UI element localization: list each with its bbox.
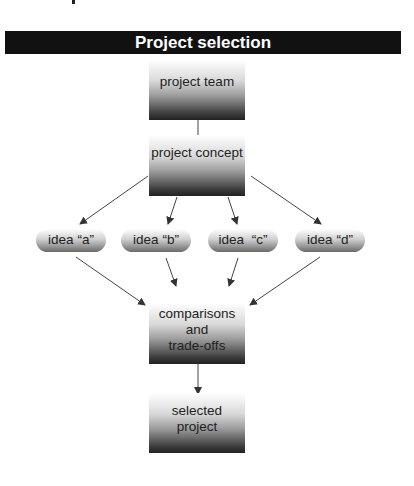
node-project-concept: project concept (149, 135, 245, 196)
node-label-line: project (149, 419, 245, 435)
arrow-concept-to-idea-c (228, 197, 237, 224)
arrow-idea-d-to-comparisons (250, 257, 320, 305)
arrow-concept-to-idea-a (80, 176, 148, 224)
arrow-idea-c-to-comparisons (229, 258, 238, 286)
arrow-concept-to-idea-b (168, 197, 177, 224)
node-project-team: project team (149, 60, 245, 120)
node-idea-a: idea “a” (36, 229, 106, 252)
node-idea-c: idea “c” (208, 229, 278, 252)
node-label-line: comparisons (149, 306, 245, 322)
node-label-line: selected (149, 403, 245, 419)
node-idea-b: idea “b” (121, 229, 191, 252)
node-label: project concept (149, 145, 245, 160)
node-idea-d: idea “d” (295, 229, 365, 252)
arrow-idea-b-to-comparisons (166, 258, 176, 286)
node-comparisons-trade-offs: comparisons and trade-offs (149, 303, 245, 364)
node-selected-project: selected project (149, 393, 245, 453)
arrow-idea-a-to-comparisons (76, 257, 145, 305)
node-label: project team (149, 74, 245, 89)
node-label-line: and (149, 322, 245, 338)
arrow-concept-to-idea-d (251, 176, 321, 224)
node-label-line: trade-offs (149, 338, 245, 354)
